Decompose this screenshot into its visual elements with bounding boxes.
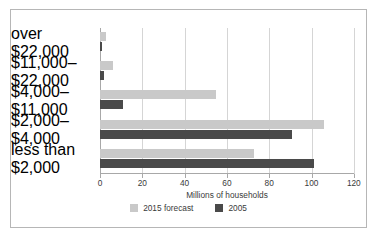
bar-group-2000-4000 (100, 116, 354, 145)
bar-2005[interactable] (100, 159, 314, 168)
tick-label: 40 (180, 178, 189, 188)
category-label-row: $4,000–$11,000 (11, 86, 95, 115)
legend-swatch-icon (215, 204, 223, 212)
legend-label: 2015 forecast (143, 203, 193, 213)
category-label: less than $2,000 (11, 141, 95, 177)
bar-2015-forecast[interactable] (100, 61, 113, 70)
x-axis-title: Millions of households (100, 190, 354, 200)
bar-2015-forecast[interactable] (100, 149, 254, 158)
tick-label: 20 (138, 178, 147, 188)
plot-area (100, 28, 354, 174)
bar-2005[interactable] (100, 42, 102, 51)
chart-figure: over $22,000 $11,000–$22,000 $4,000–$11,… (10, 9, 367, 228)
tick-label: 0 (98, 178, 103, 188)
legend-swatch-icon (130, 204, 138, 212)
chart-legend: 2015 forecast 2005 (11, 203, 366, 213)
bar-2015-forecast[interactable] (100, 90, 216, 99)
bar-2015-forecast[interactable] (100, 32, 106, 41)
legend-label: 2005 (228, 203, 246, 213)
category-label-row: less than $2,000 (11, 145, 95, 174)
bar-2005[interactable] (100, 130, 292, 139)
category-axis-labels: over $22,000 $11,000–$22,000 $4,000–$11,… (11, 28, 98, 174)
tick-label: 60 (222, 178, 231, 188)
bar-group-4000-11000 (100, 86, 354, 115)
bar-group-less-than-2000 (100, 145, 354, 174)
bar-group-11000-22000 (100, 57, 354, 86)
bar-2005[interactable] (100, 100, 123, 109)
bar-2015-forecast[interactable] (100, 120, 324, 129)
tick-label: 100 (305, 178, 319, 188)
category-label-row: $11,000–$22,000 (11, 57, 95, 86)
bar-2005[interactable] (100, 71, 104, 80)
bar-group-over-22000 (100, 28, 354, 57)
category-label-row: $2,000–$4,000 (11, 116, 95, 145)
tick-label: 80 (265, 178, 274, 188)
x-axis-ticks: 0 20 40 60 80 100 120 (100, 178, 354, 190)
legend-item-2005[interactable]: 2005 (215, 203, 246, 213)
legend-item-2015-forecast[interactable]: 2015 forecast (130, 203, 193, 213)
tick-label: 120 (347, 178, 361, 188)
